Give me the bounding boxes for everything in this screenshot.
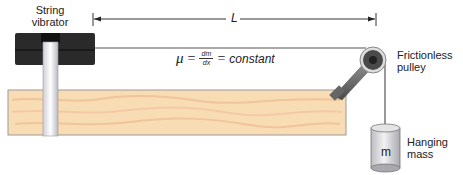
wooden-board <box>8 90 346 135</box>
pulley-label: Frictionless pulley <box>397 49 453 73</box>
equals-sign: = <box>188 51 196 67</box>
fraction-denominator: dx <box>203 59 210 67</box>
mass-label-line1: Hanging <box>407 136 448 148</box>
pulley-label-line2: pulley <box>397 61 453 73</box>
pulley <box>360 47 386 73</box>
mass-symbol: m <box>378 146 394 158</box>
length-label: L <box>229 12 240 24</box>
fraction-numerator: dm <box>202 50 212 58</box>
pulley-label-line1: Frictionless <box>397 49 453 61</box>
vibrator-label-line1: String <box>20 4 80 16</box>
mass-label: Hanging mass <box>407 136 448 160</box>
mass-label-line2: mass <box>407 148 448 160</box>
mu-symbol: μ <box>176 50 184 67</box>
vibrator-label-line2: vibrator <box>20 16 80 28</box>
linear-density-formula: μ = dm dx = constant <box>176 50 275 67</box>
equals-sign-2: = <box>217 51 225 67</box>
constant-text: constant <box>229 52 274 66</box>
derivative-fraction: dm dx <box>199 50 213 67</box>
vibrator-label: String vibrator <box>20 4 80 28</box>
